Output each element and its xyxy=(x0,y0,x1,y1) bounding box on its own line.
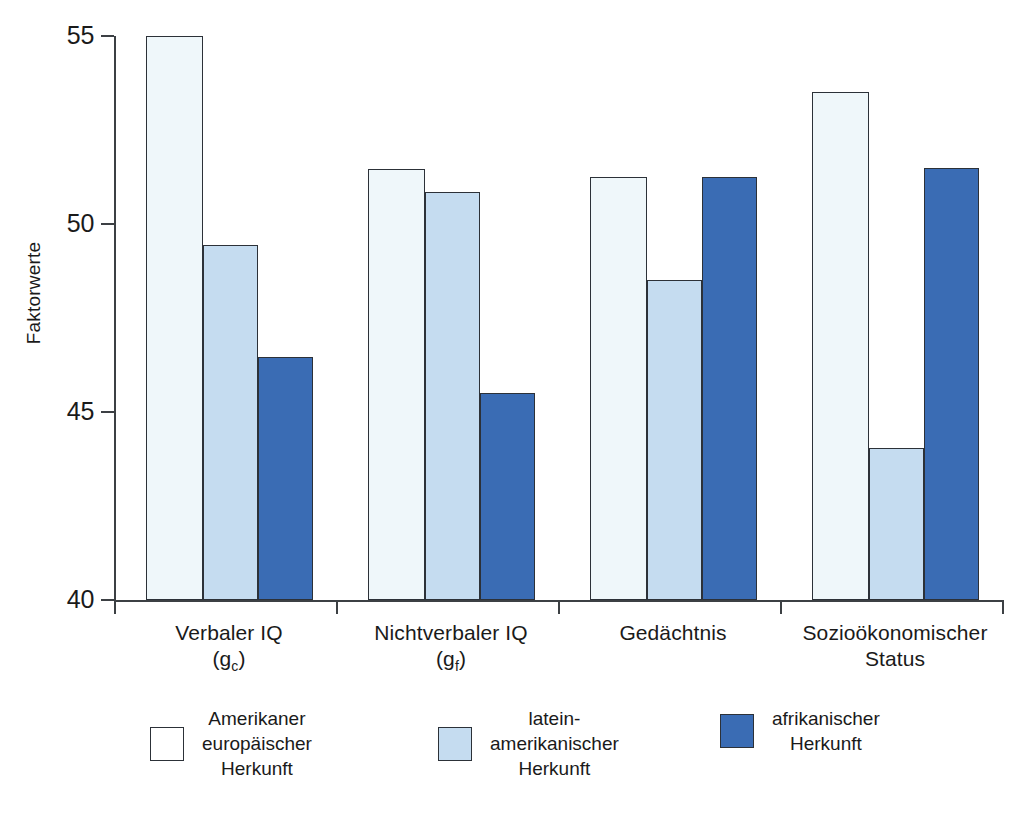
y-axis-tick-mark xyxy=(101,35,114,37)
legend-swatch-latin-american xyxy=(438,727,472,761)
legend-item-latin-american[interactable]: latein- amerikanischer Herkunft xyxy=(438,706,619,781)
category-label-line1: Sozioökonomischer xyxy=(760,620,1030,646)
bar xyxy=(203,245,258,600)
bar xyxy=(924,168,979,600)
bar xyxy=(702,177,757,600)
y-axis-tick-mark xyxy=(101,411,114,413)
bar xyxy=(368,169,425,600)
legend-label-european: Amerikaner europäischer Herkunft xyxy=(202,706,312,781)
legend-label-latin-american: latein- amerikanischer Herkunft xyxy=(490,706,619,781)
x-axis-tick-mark xyxy=(558,600,560,614)
x-axis-tick-mark xyxy=(114,600,116,614)
bar xyxy=(258,357,313,600)
category-label-line2: (gf) xyxy=(316,646,586,672)
legend-swatch-european xyxy=(150,727,184,761)
bar xyxy=(812,92,869,600)
bar xyxy=(869,448,924,600)
x-axis-category-label: SozioökonomischerStatus xyxy=(760,620,1030,672)
bar xyxy=(146,36,203,600)
legend-swatch-african xyxy=(720,714,754,748)
x-axis-tick-mark xyxy=(1002,600,1004,614)
legend-label-african: afrikanischer Herkunft xyxy=(772,706,880,756)
plot-area: Verbaler IQ(gc)Nichtverbaler IQ(gf)Gedäc… xyxy=(0,0,1036,818)
category-label-subscript: f xyxy=(455,658,459,674)
bar xyxy=(480,393,535,600)
bar xyxy=(590,177,647,600)
chart-legend: Amerikaner europäischer Herkunft latein-… xyxy=(150,706,910,806)
category-label-subscript: c xyxy=(231,658,238,674)
bar xyxy=(647,280,702,600)
x-axis-tick-mark xyxy=(336,600,338,614)
y-axis-tick-mark xyxy=(101,599,114,601)
bar xyxy=(425,192,480,600)
legend-item-african[interactable]: afrikanischer Herkunft xyxy=(720,706,880,756)
y-axis-tick-mark xyxy=(101,223,114,225)
category-label-line2: Status xyxy=(760,646,1030,672)
legend-item-european[interactable]: Amerikaner europäischer Herkunft xyxy=(150,706,312,781)
x-axis-tick-mark xyxy=(780,600,782,614)
bar-chart-figure: Faktorwerte 55504540 Verbaler IQ(gc)Nich… xyxy=(0,0,1036,818)
